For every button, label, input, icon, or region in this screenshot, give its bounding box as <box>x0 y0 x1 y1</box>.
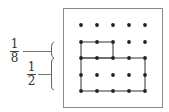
numerator: 1 <box>11 39 19 50</box>
fraction-one-eighth: 1 8 <box>10 39 19 64</box>
fraction-one-half: 1 2 <box>27 62 36 87</box>
curly-brace <box>51 42 54 90</box>
geoboard-diagram <box>0 0 169 112</box>
grid-dot <box>95 89 99 93</box>
grid-dot <box>111 56 115 60</box>
grid-dot <box>95 23 99 27</box>
numerator: 1 <box>28 62 36 73</box>
grid-dot <box>111 23 115 27</box>
grid-dot <box>127 89 131 93</box>
grid-dot <box>143 40 147 44</box>
denominator: 8 <box>11 53 19 64</box>
grid-dot <box>127 23 131 27</box>
grid-dot <box>111 89 115 93</box>
grid-dot <box>143 73 147 77</box>
denominator: 2 <box>28 76 36 87</box>
grid-dot <box>143 89 147 93</box>
grid-dot <box>127 56 131 60</box>
grid-dot <box>95 40 99 44</box>
grid-dot <box>143 56 147 60</box>
grid-dot <box>79 56 83 60</box>
grid-dot <box>111 40 115 44</box>
grid-dot <box>95 73 99 77</box>
grid-dot <box>127 40 131 44</box>
grid-dot <box>79 40 83 44</box>
grid-dot <box>95 56 99 60</box>
grid-dot <box>79 73 83 77</box>
grid-dot <box>79 23 83 27</box>
grid-dot <box>127 73 131 77</box>
grid-dot <box>143 23 147 27</box>
grid-dot <box>111 73 115 77</box>
grid-dot <box>79 89 83 93</box>
